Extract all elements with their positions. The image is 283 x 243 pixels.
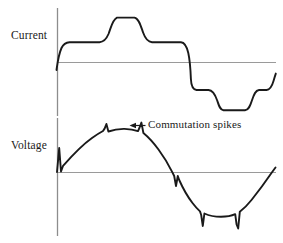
current-panel	[57, 8, 277, 116]
commutation-spikes-label: Commutation spikes	[148, 118, 241, 130]
current-waveform-trace	[57, 18, 276, 111]
current-axis-label: Current	[11, 29, 47, 41]
waveform-figure: Current Voltage Commutation spikes	[0, 0, 283, 243]
voltage-waveform-trace	[57, 123, 276, 229]
voltage-axis-label: Voltage	[11, 139, 47, 151]
voltage-panel	[57, 118, 276, 236]
callout-arrow-head-icon	[130, 123, 137, 128]
